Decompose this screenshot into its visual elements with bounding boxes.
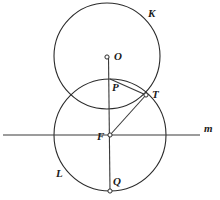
point-marker-o [105, 55, 109, 59]
label-circle-k: K [148, 8, 155, 19]
geometry-figure: K L m O P T F Q [0, 0, 220, 200]
line-vertical-axis [109, 57, 111, 191]
label-point-f: F [97, 131, 104, 142]
figure-canvas [0, 0, 220, 200]
label-line-m: m [204, 123, 213, 134]
label-point-p: P [112, 82, 119, 93]
label-point-t: T [152, 89, 159, 100]
point-marker-q [108, 189, 112, 193]
point-marker-f [108, 133, 112, 137]
label-circle-l: L [56, 168, 63, 179]
line-ft [110, 95, 146, 135]
point-marker-t [144, 93, 148, 97]
label-point-q: Q [113, 176, 121, 187]
label-point-o: O [114, 51, 122, 62]
